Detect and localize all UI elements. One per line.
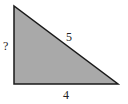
right-triangle: [14, 6, 118, 84]
triangle-diagram: ? 5 4: [0, 0, 128, 104]
hypotenuse-label: 5: [66, 30, 72, 44]
base-label: 4: [63, 88, 69, 102]
vertical-side-label: ?: [3, 39, 8, 53]
